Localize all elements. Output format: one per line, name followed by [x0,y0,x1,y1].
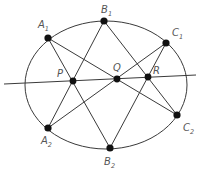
point-c1 [162,39,169,46]
point-p [70,78,77,85]
label-b1: B1 [101,4,112,18]
pascal-line [4,75,196,84]
segment-a1-b2 [48,38,110,148]
point-labels: A1B1C1C2B2A2PQR [37,4,194,170]
label-p: P [57,68,64,79]
point-r [145,74,152,81]
segment-c1-a2 [48,43,166,128]
point-b1 [100,17,107,24]
pascal-diagram: A1B1C1C2B2A2PQR [0,0,204,171]
hexagon-segments [48,21,177,148]
point-c2 [173,111,180,118]
label-q: Q [113,62,121,73]
point-b2 [106,144,113,151]
label-a2: A2 [40,135,52,149]
label-c1: C1 [172,27,183,41]
label-r: R [153,65,160,76]
segment-c1-b2 [110,43,166,148]
point-a1 [44,34,51,41]
point-q [114,76,121,83]
point-a2 [44,124,51,131]
label-a1: A1 [37,19,49,33]
label-b2: B2 [104,156,115,170]
label-c2: C2 [183,122,194,136]
